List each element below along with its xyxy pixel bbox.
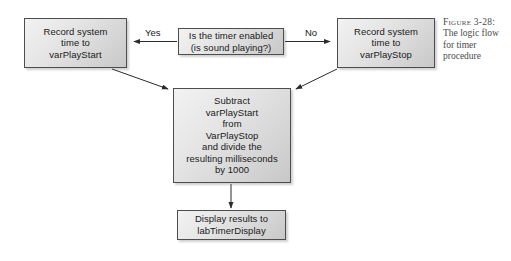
figure-caption: Figure 3-28: The logic flow for timer pr… [443,17,509,63]
figure-container: Record system time to varPlayStart Is th… [0,0,511,261]
node-record-stop[interactable]: Record system time to varPlayStop [337,18,435,68]
figure-caption-text: The logic flow for timer procedure [443,28,509,62]
node-subtract[interactable]: Subtract varPlayStart from VarPlayStop a… [173,88,291,183]
edge-label-yes: Yes [145,27,161,38]
edge-label-no: No [305,27,317,38]
figure-caption-label: Figure 3-28: [443,17,509,28]
node-decision-timer-enabled[interactable]: Is the timer enabled (is sound playing?) [178,28,284,55]
arrow-start-to-subtract [112,69,168,89]
node-record-start[interactable]: Record system time to varPlayStart [24,18,127,68]
arrow-stop-to-subtract [296,69,337,89]
node-display[interactable]: Display results to labTimerDisplay [177,210,286,240]
